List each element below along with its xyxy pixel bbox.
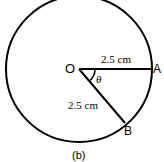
- radius-ob: [79, 69, 125, 123]
- angle-theta-label: θ: [96, 73, 102, 85]
- radius-oa-length-label: 2.5 cm: [101, 53, 131, 65]
- angle-arc: [89, 69, 95, 81]
- center-label-o: O: [65, 61, 75, 76]
- circle: [6, 0, 152, 142]
- point-a-label: A: [153, 62, 161, 76]
- point-b-label: B: [124, 124, 132, 138]
- radius-ob-length-label: 2.5 cm: [68, 99, 98, 111]
- circle-diagram: O A B θ 2.5 cm 2.5 cm (b): [0, 0, 164, 162]
- caption: (b): [72, 149, 85, 161]
